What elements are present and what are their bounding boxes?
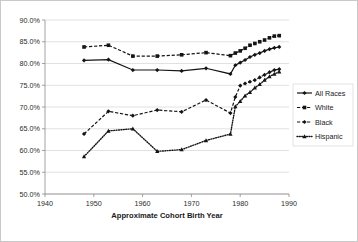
series-point	[258, 82, 262, 86]
series-white	[82, 34, 281, 58]
series-point	[228, 132, 232, 136]
series-point	[263, 73, 267, 77]
series-point	[238, 84, 242, 88]
legend-label: White	[315, 103, 333, 112]
y-axis-tick-label: 65.0%	[20, 124, 41, 133]
y-axis-tick-label: 55.0%	[20, 168, 41, 177]
chart-legend: All RacesWhiteBlackHispanic	[293, 84, 353, 146]
series-point	[267, 74, 271, 78]
x-axis-tick-label: 1960	[135, 199, 151, 208]
x-axis-tick-labels: 194019501960197019801990	[37, 199, 297, 208]
x-axis-tick-label: 1950	[86, 199, 102, 208]
series-point	[277, 34, 281, 38]
series-all-races	[82, 45, 281, 76]
y-axis-tick-label: 90.0%	[20, 16, 41, 25]
gridlines	[45, 20, 289, 194]
series-point	[82, 58, 86, 62]
series-point	[204, 98, 208, 102]
legend-label: Hispanic	[315, 132, 343, 141]
series-point	[258, 51, 262, 55]
legend-label: All Races	[315, 89, 346, 98]
series-point	[228, 111, 232, 115]
series-point	[180, 110, 184, 114]
series-point	[107, 43, 111, 47]
series-point	[82, 45, 86, 49]
legend-marker	[303, 106, 307, 110]
series-point	[234, 51, 238, 55]
x-axis-title: Approximate Cohort Birth Year	[111, 211, 222, 220]
series-point	[131, 68, 135, 72]
series-point	[273, 34, 277, 38]
y-axis-tick-label: 75.0%	[20, 81, 41, 90]
y-axis-tick-labels: 50.0%55.0%60.0%65.0%70.0%75.0%80.0%85.0%…	[20, 16, 41, 199]
chart-canvas: 50.0%55.0%60.0%65.0%70.0%75.0%80.0%85.0%…	[1, 1, 358, 242]
series-point	[268, 36, 272, 40]
axes	[42, 20, 289, 197]
y-axis-tick-label: 85.0%	[20, 37, 41, 46]
series-point	[267, 47, 271, 51]
series-point	[233, 95, 237, 99]
x-axis-tick-label: 1940	[37, 199, 53, 208]
series-black	[82, 67, 281, 136]
series-point	[180, 53, 184, 57]
series-point	[253, 42, 257, 46]
series-point	[229, 54, 233, 58]
series-point	[106, 57, 110, 61]
series-point	[155, 54, 159, 58]
series-point	[277, 45, 281, 49]
series-point	[238, 61, 242, 65]
x-axis-tick-label: 1980	[232, 199, 248, 208]
series-point	[272, 46, 276, 50]
series-point	[253, 78, 257, 82]
series-point	[180, 69, 184, 73]
data-series-group	[82, 34, 281, 158]
x-axis-tick-label: 1990	[281, 199, 297, 208]
legend-label: Black	[315, 118, 333, 127]
x-axis-tick-label: 1970	[183, 199, 199, 208]
series-point	[263, 38, 267, 42]
series-point	[267, 70, 271, 74]
series-point	[258, 75, 262, 79]
series-point	[248, 80, 252, 84]
series-point	[263, 49, 267, 53]
series-point	[131, 114, 135, 118]
series-point	[258, 40, 262, 44]
series-point	[131, 54, 135, 58]
chart-figure: 50.0%55.0%60.0%65.0%70.0%75.0%80.0%85.0%…	[0, 0, 358, 242]
series-point	[248, 43, 252, 47]
y-axis-tick-label: 80.0%	[20, 59, 41, 68]
series-line	[84, 72, 279, 157]
series-point	[238, 49, 242, 53]
y-axis-tick-label: 60.0%	[20, 146, 41, 155]
series-point	[243, 46, 247, 50]
series-line	[84, 69, 279, 134]
series-point	[155, 108, 159, 112]
y-axis-tick-label: 50.0%	[20, 190, 41, 199]
series-point	[272, 68, 276, 72]
series-point	[277, 69, 281, 73]
series-point	[204, 51, 208, 55]
y-axis-tick-label: 70.0%	[20, 103, 41, 112]
series-point	[155, 68, 159, 72]
series-point	[204, 66, 208, 70]
series-point	[253, 53, 257, 57]
